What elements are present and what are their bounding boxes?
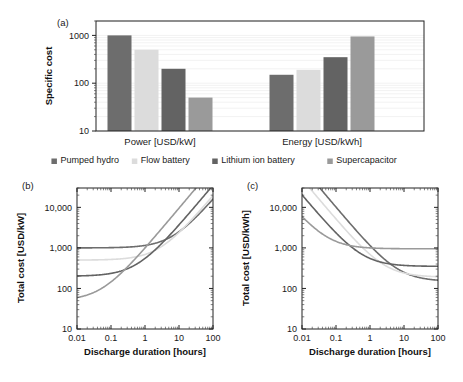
bar-pumped-hydro-power [108,35,132,131]
panel-a-ylabel: Specific cost [43,46,54,105]
panel-(c)-ylabel: Total cost [USD/kWh] [240,210,251,306]
panel-(b)-ytick-label: 100 [57,284,72,294]
bar-supercapacitor-power [189,98,213,131]
panel-(c)-tag: (c) [247,180,258,191]
bar-flow-battery-energy [297,70,321,131]
panel-(c)-xtick-label: 100 [430,333,445,343]
panel-(b)-xtick-label: 1 [142,333,147,343]
panel-(b)-ylabel: Total cost [USD/kW] [15,213,26,303]
figure-svg: Power [USD/kW]Energy [USD/kWh]101001000S… [0,0,463,382]
legend-swatch-lithium-ion-battery [212,159,218,165]
panel-(b)-xtick-label: 0.01 [68,333,86,343]
legend-label-flow-battery: Flow battery [141,155,191,165]
panel-(b)-xtick-label: 0.1 [105,333,118,343]
panel-(b)-ytick-label: 1,000 [49,243,72,253]
panel-(b)-xtick-label: 100 [205,333,220,343]
panel-(c)-xtick-label: 0.01 [293,333,311,343]
bar-pumped-hydro-energy [270,75,294,131]
panel-(c)-xtick-label: 10 [399,333,409,343]
panel-a-ytick-label: 1000 [69,31,89,41]
panel-(c)-ytick-label: 1,000 [274,243,297,253]
legend-swatch-pumped-hydro [51,159,57,165]
panel-(c)-ytick-label: 100 [282,284,297,294]
panel-(b)-xtick-label: 10 [174,333,184,343]
bar-supercapacitor-energy [351,36,375,131]
bar-lithium-ion-battery-energy [324,57,348,131]
figure-container: Power [USD/kW]Energy [USD/kWh]101001000S… [0,0,463,382]
panel-a-ytick-label: 100 [74,78,89,88]
legend-label-lithium-ion-battery: Lithium ion battery [221,155,295,165]
panel-(b)-xlabel: Discharge duration [hours] [84,346,206,357]
panel-a-tag: (a) [57,17,69,28]
legend-label-pumped-hydro: Pumped hydro [60,155,119,165]
panel-(c)-xlabel: Discharge duration [hours] [309,346,431,357]
panel-(c)-ytick-label: 10,000 [269,203,297,213]
bar-flow-battery-power [135,50,159,131]
panel-(b)-tag: (b) [22,180,34,191]
panel-(c)-ytick-label: 10 [287,324,297,334]
panel-(b)-ytick-label: 10 [62,324,72,334]
legend-swatch-flow-battery [132,159,138,165]
panel-(c)-xtick-label: 0.1 [330,333,343,343]
legend-label-supercapacitor: Supercapacitor [336,155,397,165]
bar-lithium-ion-battery-power [162,69,186,131]
panel-a-group-label: Energy [USD/kWh] [282,136,362,147]
legend-swatch-supercapacitor [327,159,333,165]
panel-a-ytick-label: 10 [79,126,89,136]
panel-(b)-ytick-label: 10,000 [44,203,72,213]
panel-(c)-xtick-label: 1 [367,333,372,343]
panel-a-group-label: Power [USD/kW] [124,136,195,147]
